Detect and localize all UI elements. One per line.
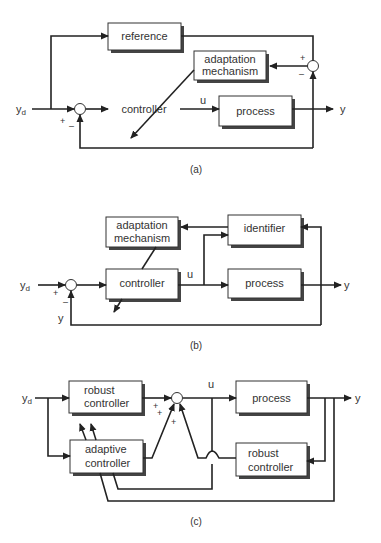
sum2-minus-sign: –: [299, 69, 304, 79]
sum1-minus-sign: –: [69, 121, 74, 131]
process-label: process: [236, 105, 275, 117]
control-u-label: u: [208, 378, 214, 390]
diagram-c: robust controller adaptive controller pr…: [22, 378, 361, 527]
controller-label: controller: [121, 103, 167, 115]
caption-a: (a): [190, 164, 202, 175]
adaptation-mechanism-block: adaptation mechanism: [106, 217, 181, 250]
robust-controller-block-1: robust controller: [69, 381, 145, 416]
diagram-a: reference adaptation mechanism process c…: [16, 23, 346, 175]
robust-controller-2-line1: robust: [248, 447, 279, 459]
adaptive-controller-line1: adaptive: [85, 443, 127, 455]
identifier-label: identifier: [244, 222, 286, 234]
plus-sign-3: +: [171, 417, 176, 427]
output-y-label: y: [340, 103, 346, 115]
adaptation-label-line2: mechanism: [202, 65, 258, 77]
summing-junction-1: [75, 104, 86, 115]
process-block: process: [236, 381, 310, 416]
diagram-b: adaptation mechanism identifier controll…: [20, 215, 350, 351]
sum-plus-sign: +: [53, 288, 58, 298]
process-label: process: [245, 277, 284, 289]
identifier-block: identifier: [228, 215, 304, 248]
summing-junction: [172, 393, 183, 404]
robust-controller-1-line1: robust: [84, 384, 115, 396]
input-yd-label: yd: [20, 279, 30, 293]
reference-block: reference: [108, 23, 184, 53]
process-block: process: [219, 96, 295, 129]
reference-label: reference: [121, 30, 167, 42]
input-yd-label: yd: [22, 392, 32, 406]
controller-label: controller: [119, 277, 165, 289]
adaptive-controller-line2: controller: [85, 457, 131, 469]
diagram-canvas: reference adaptation mechanism process c…: [0, 0, 381, 543]
adaptation-mechanism-block: adaptation mechanism: [194, 51, 269, 83]
process-block: process: [228, 269, 304, 301]
robust-controller-block-2: robust controller: [236, 443, 310, 479]
adaptation-label-line2: mechanism: [114, 232, 170, 244]
adaptive-controller-block: adaptive controller: [70, 440, 146, 476]
summing-junction: [66, 280, 77, 291]
plus-sign-2: +: [157, 408, 162, 418]
summing-junction-2: [308, 61, 319, 72]
caption-b: (b): [190, 340, 202, 351]
output-y-label: y: [344, 279, 350, 291]
input-yd-label: yd: [16, 103, 26, 117]
controller-block: controller: [106, 269, 181, 302]
feedback-y-label: y: [58, 312, 64, 324]
adaptation-label-line1: adaptation: [204, 53, 255, 65]
output-y-label: y: [355, 392, 361, 404]
robust-controller-2-line2: controller: [248, 461, 294, 473]
adaptation-label-line1: adaptation: [116, 219, 167, 231]
caption-c: (c): [190, 516, 202, 527]
control-u-label: u: [200, 94, 206, 106]
robust-controller-1-line2: controller: [84, 397, 130, 409]
process-label: process: [252, 392, 291, 404]
sum2-plus-sign: +: [300, 53, 305, 63]
sum-minus-sign: –: [63, 297, 68, 307]
sum1-plus-sign: +: [60, 116, 65, 126]
control-u-label: u: [187, 268, 193, 280]
